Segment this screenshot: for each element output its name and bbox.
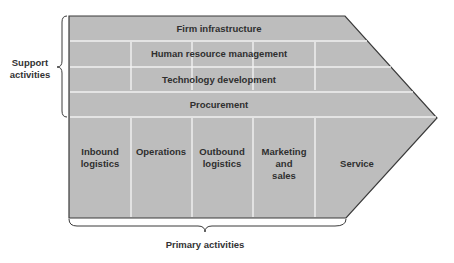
- svg-text:Outbound: Outbound: [199, 146, 245, 157]
- svg-text:and: and: [276, 158, 293, 169]
- svg-text:Inbound: Inbound: [81, 146, 119, 157]
- support-activity-human-resource: Human resource management: [151, 48, 288, 59]
- svg-text:Service: Service: [340, 158, 374, 169]
- svg-text:logistics: logistics: [203, 158, 242, 169]
- svg-text:Operations: Operations: [136, 146, 186, 157]
- primary-activity-operations: Operations: [136, 146, 186, 157]
- primary-brace-icon: [69, 219, 346, 232]
- primary-activity-service: Service: [340, 158, 374, 169]
- support-brace-icon: [57, 16, 67, 117]
- primary-activity-inbound-logistics: Inbound logistics: [81, 146, 120, 169]
- value-chain-diagram: Firm infrastructure Human resource manag…: [0, 0, 454, 263]
- support-activity-firm-infrastructure: Firm infrastructure: [177, 23, 262, 34]
- primary-activity-outbound-logistics: Outbound logistics: [199, 146, 245, 169]
- support-activities-label-line2: activities: [10, 69, 51, 80]
- svg-text:logistics: logistics: [81, 158, 120, 169]
- support-activity-procurement: Procurement: [190, 99, 249, 110]
- svg-text:Marketing: Marketing: [262, 146, 307, 157]
- svg-text:sales: sales: [272, 170, 296, 181]
- support-activities-label: Support: [12, 57, 49, 68]
- primary-activities-label: Primary activities: [166, 239, 245, 250]
- support-activity-technology: Technology development: [162, 74, 277, 85]
